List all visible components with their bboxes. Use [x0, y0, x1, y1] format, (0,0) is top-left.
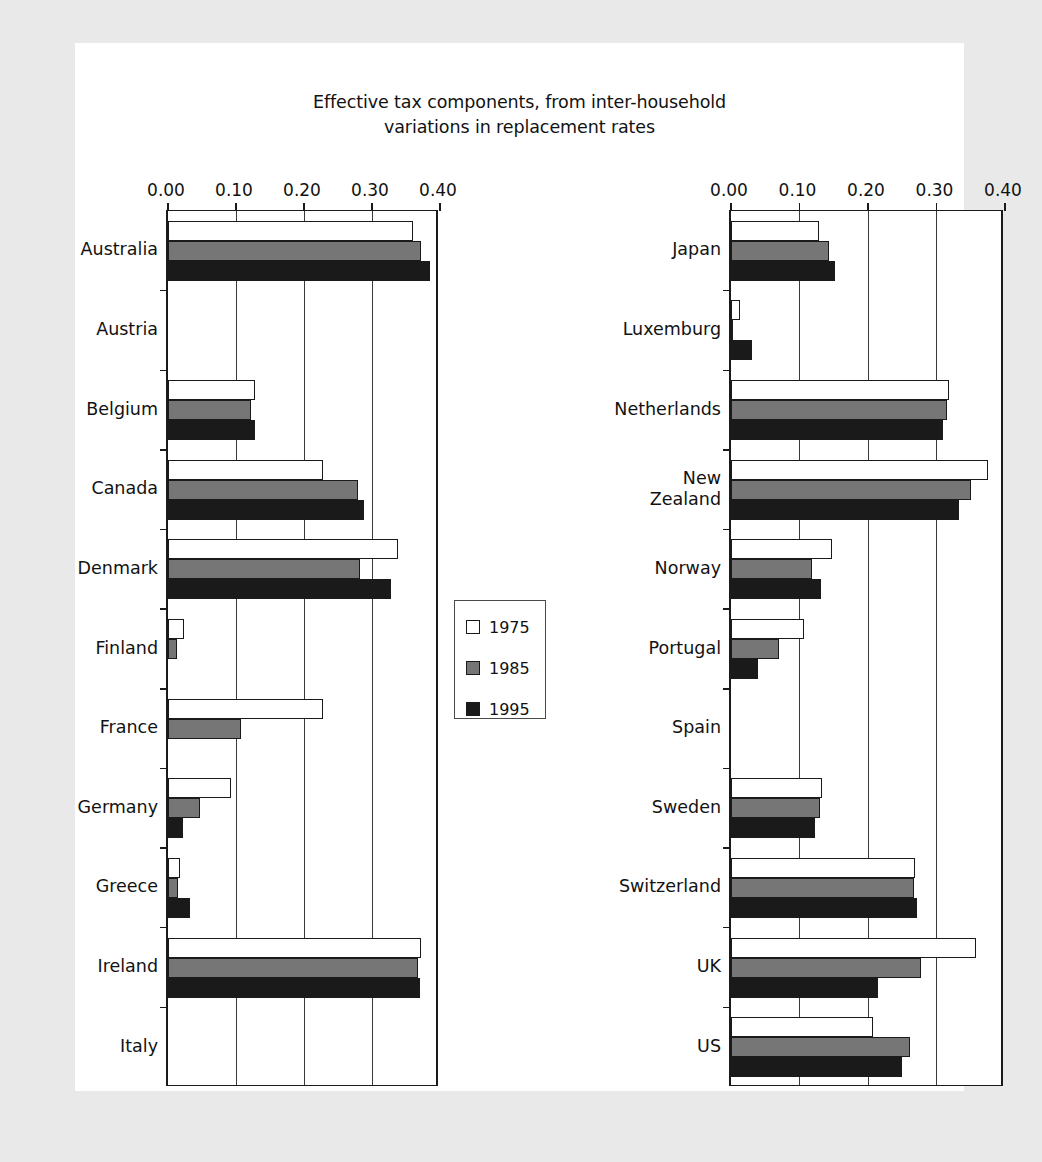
category-tick-mark — [723, 688, 731, 690]
bar-1995 — [731, 420, 943, 440]
bar-1995 — [731, 500, 959, 520]
bar-group — [731, 858, 1001, 918]
x-tick-label: 0.00 — [710, 180, 748, 200]
category-label: Denmark — [75, 558, 158, 579]
bar-1995 — [731, 579, 821, 599]
category-label: Germany — [75, 797, 158, 818]
legend-item: 1975 — [466, 618, 530, 636]
category-tick-mark — [723, 847, 731, 849]
x-tick-label: 0.30 — [351, 180, 389, 200]
bar-group — [731, 938, 1001, 998]
category-tick-mark — [723, 449, 731, 451]
x-axis-tick-mark — [303, 203, 305, 211]
bar-group — [168, 699, 436, 759]
category-label: Belgium — [75, 399, 158, 420]
category-label: US — [545, 1036, 721, 1057]
bar-1985 — [168, 480, 358, 500]
bar-group — [731, 300, 1001, 360]
chart-page: Effective tax components, from inter-hou… — [0, 0, 1042, 1162]
bar-1975 — [168, 699, 323, 719]
bar-1995 — [168, 500, 364, 520]
chart-panel-right: 0.000.100.200.300.40 JapanLuxemburgNethe… — [545, 43, 964, 1091]
chart-panel-left: 0.000.100.200.300.40 AustraliaAustriaBel… — [75, 43, 545, 1091]
category-label: Finland — [75, 638, 158, 659]
bar-1995 — [168, 818, 183, 838]
bar-group — [168, 619, 436, 679]
x-tick-label: 0.20 — [283, 180, 321, 200]
bar-group — [168, 221, 436, 281]
bar-1995 — [168, 898, 190, 918]
x-tick-label: 0.40 — [419, 180, 457, 200]
bar-1975 — [168, 858, 180, 878]
category-tick-mark — [723, 1007, 731, 1009]
legend-swatch-icon — [466, 702, 480, 716]
bar-1985 — [731, 1037, 910, 1057]
x-tick-label: 0.00 — [147, 180, 185, 200]
bar-1995 — [168, 579, 391, 599]
bar-1975 — [731, 539, 832, 559]
bar-1975 — [168, 380, 255, 400]
x-axis-tick-mark — [799, 203, 801, 211]
bar-group — [731, 699, 1001, 759]
bar-1975 — [168, 619, 184, 639]
bar-1975 — [168, 221, 413, 241]
bar-1985 — [168, 400, 251, 420]
bar-1985 — [168, 878, 178, 898]
category-label: Austria — [75, 319, 158, 340]
bar-group — [168, 1017, 436, 1077]
bar-group — [168, 858, 436, 918]
category-tick-mark — [160, 290, 168, 292]
x-tick-label: 0.40 — [984, 180, 1022, 200]
category-tick-mark — [160, 768, 168, 770]
bar-1975 — [731, 221, 819, 241]
legend-label: 1975 — [489, 618, 530, 637]
x-tick-label: 0.30 — [916, 180, 954, 200]
bar-1995 — [168, 420, 255, 440]
legend-item: 1995 — [466, 700, 530, 718]
x-tick-label: 0.10 — [215, 180, 253, 200]
x-tick-label: 0.10 — [779, 180, 817, 200]
x-axis-tick-mark — [371, 203, 373, 211]
plot-area-right — [729, 210, 1003, 1086]
bar-1985 — [731, 241, 829, 261]
bar-group — [731, 619, 1001, 679]
x-axis-tick-mark — [235, 203, 237, 211]
bar-group — [731, 221, 1001, 281]
bar-1985 — [731, 400, 947, 420]
legend-label: 1985 — [489, 659, 530, 678]
bar-1975 — [731, 778, 822, 798]
category-label: Spain — [545, 717, 721, 738]
bar-1985 — [731, 958, 921, 978]
bar-1985 — [168, 559, 360, 579]
category-label: Japan — [545, 239, 721, 260]
bar-group — [731, 539, 1001, 599]
bar-1995 — [731, 898, 917, 918]
category-tick-mark — [160, 688, 168, 690]
bar-1975 — [168, 938, 421, 958]
category-tick-mark — [723, 370, 731, 372]
bar-1985 — [731, 798, 820, 818]
bar-group — [731, 778, 1001, 838]
category-tick-mark — [160, 529, 168, 531]
bar-1975 — [731, 380, 949, 400]
category-tick-mark — [160, 847, 168, 849]
x-tick-label: 0.20 — [847, 180, 885, 200]
bar-1995 — [731, 659, 758, 679]
category-label: Australia — [75, 239, 158, 260]
bar-1995 — [168, 978, 420, 998]
x-axis-tick-mark — [730, 203, 732, 211]
category-label: UK — [545, 956, 721, 977]
bar-1985 — [168, 719, 241, 739]
bar-1975 — [731, 300, 740, 320]
category-label: Greece — [75, 876, 158, 897]
bar-1975 — [731, 619, 804, 639]
legend-swatch-icon — [466, 661, 480, 675]
x-axis-tick-labels-left: 0.000.100.200.300.40 — [166, 180, 438, 202]
bar-group — [168, 539, 436, 599]
bar-group — [168, 460, 436, 520]
legend-label: 1995 — [489, 700, 530, 719]
plot-area-left — [166, 210, 438, 1086]
bar-1995 — [731, 818, 815, 838]
bar-1985 — [731, 320, 733, 340]
category-label: Switzerland — [545, 876, 721, 897]
